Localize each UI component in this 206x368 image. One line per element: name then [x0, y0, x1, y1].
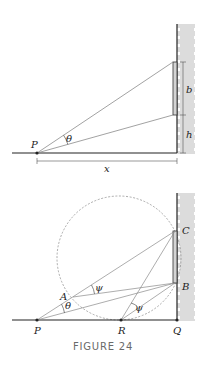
line-a-b [73, 283, 175, 297]
label-c: C [182, 225, 190, 236]
picture-rect [173, 231, 177, 283]
label-r: R [117, 325, 126, 336]
label-b: B [181, 281, 189, 292]
label-h: h [186, 129, 192, 140]
point-q-dot [175, 318, 178, 321]
sight-line-bottom [37, 115, 173, 153]
label-p: P [30, 139, 38, 150]
point-p-dot [35, 318, 38, 321]
wall-shading [177, 193, 195, 321]
sight-line-top [37, 62, 173, 153]
label-x: x [104, 163, 110, 174]
line-p-c [37, 231, 175, 320]
line-p-b [37, 283, 175, 320]
label-psi-1: ψ [95, 282, 103, 293]
top-diagram: P θ b h x [12, 24, 195, 174]
line-r-c [121, 231, 175, 320]
figure-caption: FIGURE 24 [73, 341, 133, 352]
label-psi-2: ψ [135, 302, 143, 313]
label-p: P [33, 325, 41, 336]
label-q: Q [173, 325, 181, 336]
label-theta: θ [66, 133, 72, 144]
picture-rect [173, 62, 177, 115]
point-r-dot [119, 318, 122, 321]
figure-24: P θ b h x A C B [0, 0, 206, 368]
bottom-diagram: A C B P R Q θ ψ ψ [12, 193, 195, 336]
label-theta: θ [65, 300, 71, 311]
label-b: b [186, 84, 192, 95]
dashed-circle [57, 196, 181, 320]
line-r-b [121, 283, 175, 320]
point-p-dot [35, 151, 38, 154]
